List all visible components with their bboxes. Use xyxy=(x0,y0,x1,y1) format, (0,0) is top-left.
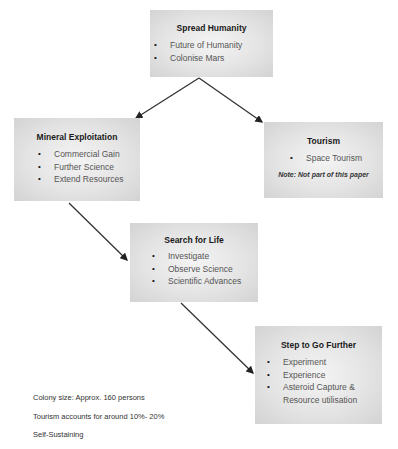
node-search-for-life: Search for Life •Investigate •Observe Sc… xyxy=(130,223,258,302)
tourism-share-text: Tourism accounts for around 10%- 20% xyxy=(33,412,164,421)
list-item: •Future of Humanity xyxy=(150,39,273,52)
bullet-icon: • xyxy=(290,152,293,165)
list-item: •Experience xyxy=(263,369,378,382)
node-step-to-go-further: Step to Go Further •Experiment •Experien… xyxy=(255,326,382,424)
bullet-icon: • xyxy=(152,263,155,276)
list-item: •Further Science xyxy=(34,161,140,174)
arrow-spread-to-mineral xyxy=(136,78,199,118)
bullet-icon: • xyxy=(154,39,157,52)
node-note: Note: Not part of this paper xyxy=(264,171,383,178)
list-item: •Investigate xyxy=(148,250,258,263)
node-spread-humanity: Spread Humanity •Future of Humanity •Col… xyxy=(150,10,273,77)
bullet-icon: • xyxy=(154,52,157,65)
node-title: Mineral Exploitation xyxy=(14,132,140,142)
bullet-icon: • xyxy=(38,148,41,161)
bullet-icon: • xyxy=(267,369,270,382)
list-item: •Observe Science xyxy=(148,263,258,276)
list-item: •Commercial Gain xyxy=(34,148,140,161)
node-title: Tourism xyxy=(264,136,383,146)
node-tourism: Tourism •Space Tourism Note: Not part of… xyxy=(264,122,383,198)
self-sustaining-text: Self-Sustaining xyxy=(33,430,83,439)
list-item: •Scientific Advances xyxy=(148,275,258,288)
list-item: •Extend Resources xyxy=(34,173,140,186)
colony-size-text: Colony size: Approx. 160 persons xyxy=(33,393,145,402)
arrow-search-to-step xyxy=(181,303,253,373)
node-mineral-exploitation: Mineral Exploitation •Commercial Gain •F… xyxy=(14,118,140,201)
list-item: •Colonise Mars xyxy=(150,52,273,65)
bullet-icon: • xyxy=(38,161,41,174)
bullet-icon: • xyxy=(267,356,270,369)
arrow-spread-to-tourism xyxy=(199,78,262,122)
bullet-icon: • xyxy=(152,250,155,263)
bullet-icon: • xyxy=(267,381,270,394)
node-title: Spread Humanity xyxy=(150,23,273,33)
list-item: •Space Tourism xyxy=(286,152,383,165)
list-item: •Asteroid Capture & Resource utilisation xyxy=(263,381,378,406)
bullet-icon: • xyxy=(152,275,155,288)
node-title: Step to Go Further xyxy=(255,340,382,350)
list-item: •Experiment xyxy=(263,356,378,369)
arrow-mineral-to-search xyxy=(69,203,127,260)
bullet-icon: • xyxy=(38,173,41,186)
node-title: Search for Life xyxy=(130,235,258,245)
